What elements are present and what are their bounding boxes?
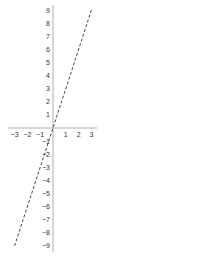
y-tick-label: 4 [46,72,50,79]
y-tick-label: 5 [46,59,50,66]
y-tick-label: 1 [46,111,50,118]
y-tick-label: 9 [46,7,50,14]
x-tick-label: 1 [64,131,68,138]
x-tick-label: −2 [23,131,31,138]
y-tick-label: −4 [42,177,50,184]
y-tick-label: −6 [42,203,50,210]
y-tick-label: 6 [46,46,50,53]
y-tick-label: 8 [46,20,50,27]
y-tick-label: 7 [46,33,50,40]
y-tick-label: −3 [42,164,50,171]
line-chart: −3−2−1123987654321−1−2−3−4−5−6−7−8−9 [0,0,198,263]
y-tick-label: −9 [42,242,50,249]
axes [8,5,97,252]
y-tick-label: −8 [42,229,50,236]
y-tick-label: −7 [42,216,50,223]
x-tick-label: −3 [11,131,19,138]
x-tick-label: 3 [89,131,93,138]
x-tick-label: 2 [77,131,81,138]
y-tick-label: 3 [46,85,50,92]
y-tick-label: −2 [42,151,50,158]
y-tick-label: 2 [46,98,50,105]
y-tick-label: −5 [42,190,50,197]
